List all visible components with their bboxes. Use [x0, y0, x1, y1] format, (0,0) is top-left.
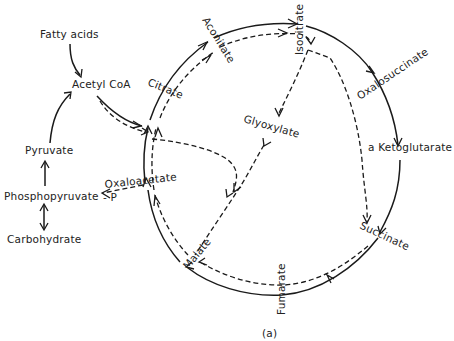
label-isocitrate: Isocitrate: [293, 4, 305, 55]
label-oxaloacetate: Oxaloacetate: [104, 170, 177, 190]
label-malate: Malate: [180, 236, 213, 272]
glyoxylate-cycle-dashed-path: [100, 34, 368, 286]
glyoxylate-arrowheads: [102, 29, 371, 283]
figure-caption: (a): [262, 327, 277, 339]
label-phosphopyruvate: Phosphopyruvate: [4, 190, 99, 202]
label-carbohydrate: Carbohydrate: [7, 233, 81, 245]
label-oxalosuccinate: Oxalosuccinate: [354, 45, 430, 102]
label-fumarate: Fumarate: [275, 263, 287, 315]
label-minus-p: - P: [103, 191, 117, 203]
feeder-pathways: [40, 44, 142, 230]
label-citrate: Citrate: [146, 76, 185, 101]
glyoxylate-cycle-diagram: Fatty acids Acetyl CoA Pyruvate Phosphop…: [0, 0, 454, 341]
label-pyruvate: Pyruvate: [25, 144, 73, 156]
label-glyoxylate: Glyoxylate: [242, 112, 301, 139]
label-fatty-acids: Fatty acids: [40, 28, 99, 40]
label-ketoglutarate: a Ketoglutarate: [368, 141, 452, 153]
label-acetyl-coa: Acetyl CoA: [72, 78, 131, 90]
